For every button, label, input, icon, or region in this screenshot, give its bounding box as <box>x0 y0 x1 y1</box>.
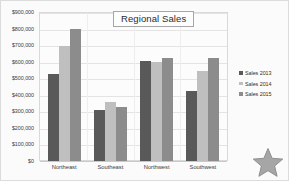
y-axis-tick-label: $600,000 <box>12 59 34 65</box>
bar[interactable] <box>140 61 151 161</box>
x-axis-tick-label: Northwest <box>134 162 180 176</box>
legend-item[interactable]: Sales 2015 <box>239 91 287 97</box>
y-axis-tick-label: $100,000 <box>12 141 34 147</box>
x-axis: NortheastSoutheastNorthwestSouthwest <box>39 162 228 176</box>
x-axis-tick-label: Southwest <box>180 162 226 176</box>
bar[interactable] <box>94 110 105 161</box>
y-axis-tick-label: $0 <box>28 158 34 164</box>
bar[interactable] <box>186 91 197 161</box>
bar-group <box>134 12 180 161</box>
bar[interactable] <box>48 74 59 161</box>
bar[interactable] <box>116 107 127 161</box>
y-axis-tick-label: $200,000 <box>12 125 34 131</box>
x-axis-tick-label: Southeast <box>87 162 133 176</box>
legend-label: Sales 2014 <box>245 81 271 87</box>
y-axis-tick-label: $300,000 <box>12 108 34 114</box>
legend-item[interactable]: Sales 2014 <box>239 81 287 87</box>
bar[interactable] <box>162 58 173 161</box>
y-axis: $900,000$800,000$700,000$600,000$500,000… <box>1 12 37 161</box>
legend-swatch-icon <box>239 92 243 96</box>
legend-item[interactable]: Sales 2013 <box>239 70 287 76</box>
x-axis-tick-label: Northeast <box>41 162 87 176</box>
y-axis-tick-label: $900,000 <box>12 9 34 15</box>
bar[interactable] <box>197 71 208 161</box>
bar-group <box>41 12 87 161</box>
legend-swatch-icon <box>239 71 243 75</box>
legend-swatch-icon <box>239 82 243 86</box>
bar[interactable] <box>105 102 116 161</box>
chart-title: Regional Sales <box>113 11 194 27</box>
y-axis-tick-label: $400,000 <box>12 92 34 98</box>
bar[interactable] <box>59 46 70 161</box>
star-icon <box>252 147 284 178</box>
y-axis-tick-label: $500,000 <box>12 75 34 81</box>
y-axis-tick-label: $700,000 <box>12 42 34 48</box>
legend-label: Sales 2015 <box>245 91 271 97</box>
bar[interactable] <box>151 62 162 161</box>
chart-container: Regional Sales $900,000$800,000$700,000$… <box>0 0 289 181</box>
bar[interactable] <box>208 58 219 161</box>
bar-group <box>87 12 133 161</box>
bar-group <box>180 12 226 161</box>
bars-layer <box>39 12 228 161</box>
legend-label: Sales 2013 <box>245 70 271 76</box>
chart-legend: Sales 2013Sales 2014Sales 2015 <box>239 70 287 102</box>
bar[interactable] <box>70 29 81 161</box>
y-axis-tick-label: $800,000 <box>12 26 34 32</box>
